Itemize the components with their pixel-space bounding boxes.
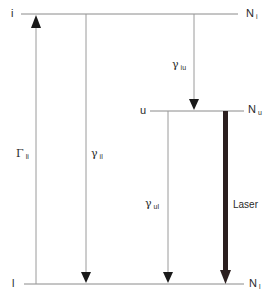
arrow-down-icon <box>220 270 231 284</box>
laser-transition-bar <box>223 111 228 271</box>
transition-label-il: γil <box>91 148 103 162</box>
energy-level-diagram <box>0 0 271 302</box>
arrow-up-icon <box>31 15 41 28</box>
transition-label-li: Γli <box>16 148 29 162</box>
arrow-down-icon <box>81 272 91 283</box>
laser-label: Laser <box>233 199 258 210</box>
population-label-i: Ni <box>246 8 258 22</box>
population-label-u: Nu <box>248 104 262 118</box>
population-label-l: Nl <box>249 278 261 292</box>
arrow-down-icon <box>189 99 199 110</box>
transition-label-ul: γul <box>145 198 159 212</box>
level-label-u: u <box>140 105 146 116</box>
transition-label-iu: γiu <box>172 59 186 73</box>
level-label-l: l <box>12 278 14 289</box>
arrow-down-icon <box>163 272 173 283</box>
level-label-i: i <box>11 8 13 19</box>
